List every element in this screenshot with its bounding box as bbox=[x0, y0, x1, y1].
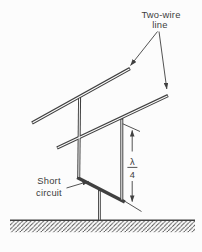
witness-line-top bbox=[123, 124, 140, 132]
linework bbox=[10, 32, 195, 233]
two-wire-line-label-line2: line bbox=[152, 19, 167, 30]
witness-line-bottom bbox=[123, 200, 141, 211]
leader-arrows bbox=[67, 32, 167, 189]
short-circuit-label-line2: circuit bbox=[36, 187, 62, 198]
short-circuit-label-line1: Short bbox=[37, 175, 61, 186]
two-wire-line-label-line1: Two-wire bbox=[141, 9, 180, 20]
diagram-canvas: Two-wire line Short circuit λ 4 bbox=[0, 0, 202, 252]
text-labels: Two-wire line Short circuit λ 4 bbox=[36, 9, 181, 199]
denominator-four: 4 bbox=[130, 170, 135, 180]
leader-arrow-lower-wire bbox=[159, 32, 167, 90]
wire-upper-core bbox=[33, 69, 130, 123]
ground-hatching bbox=[10, 221, 195, 233]
quarter-wave-dimension bbox=[123, 124, 142, 212]
stub-left-core bbox=[79, 98, 80, 177]
leader-arrow-upper-wire bbox=[131, 32, 158, 66]
short-circuit-leader-arrow bbox=[67, 181, 89, 188]
lambda-numerator: λ bbox=[130, 157, 135, 167]
wire-lower-core bbox=[58, 96, 168, 148]
figure: Two-wire line Short circuit λ 4 bbox=[0, 0, 202, 252]
short-circuit-bar bbox=[79, 178, 124, 201]
